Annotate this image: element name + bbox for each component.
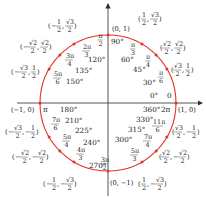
rad-225: 5π 4 [62,133,71,149]
svg-text:): ) [183,44,186,52]
svg-text:,: , [62,22,64,30]
coord-120: ( − 1 2 , √3 2 ) [48,18,77,34]
svg-text:2: 2 [177,48,181,56]
svg-text:4π: 4π [77,146,85,154]
svg-text:6: 6 [56,78,60,86]
rad-360: 2π [161,105,171,114]
svg-text:): ) [187,153,190,161]
svg-text:2: 2 [165,48,169,56]
svg-text:1: 1 [31,124,35,132]
svg-text:√3: √3 [20,64,28,72]
svg-text:−: − [15,153,21,161]
svg-text:6: 6 [156,126,160,134]
deg-210: 210° [65,116,82,125]
svg-text:2: 2 [31,47,35,55]
deg-240: 240° [83,138,100,147]
rad-90: π 2 [98,32,104,48]
svg-text:,: , [29,153,31,161]
svg-text:√2: √2 [21,149,29,157]
svg-text:5π: 5π [63,133,71,141]
coord-45: ( √2 2 , √2 2 ) [160,40,186,56]
svg-text:−: − [46,180,52,188]
deg-330: 330° [136,115,153,124]
svg-text:): ) [159,15,162,23]
svg-text:−: − [8,128,14,136]
svg-text:): ) [164,180,167,188]
coord-neg1-0: (−1, 0) [11,106,35,114]
svg-text:): ) [49,43,52,51]
rad-135: 3π 4 [65,52,74,68]
svg-text:2: 2 [23,157,27,165]
coord-300: ( 1 2 , − √3 2 ) [138,176,167,192]
svg-text:−: − [150,180,156,188]
svg-text:): ) [197,128,200,136]
deg-135: 135° [75,66,92,75]
svg-text:7π: 7π [144,133,152,141]
svg-text:π: π [146,53,150,61]
svg-text:2: 2 [40,157,44,165]
svg-text:): ) [74,22,77,30]
coord-0-neg1: (0, −1) [110,179,134,187]
coord-135: ( − √2 2 , √2 2 ) [20,39,52,55]
coord-240: ( − 1 2 , − √3 2 ) [43,176,77,192]
svg-text:−: − [60,180,66,188]
svg-text:√3: √3 [156,176,164,184]
svg-text:2: 2 [176,70,180,78]
svg-text:2π: 2π [83,43,91,51]
deg-120: 120° [88,55,105,64]
rad-150: 5π 6 [53,70,62,86]
deg-225: 225° [75,126,92,135]
svg-text:2: 2 [164,157,168,165]
svg-text:2: 2 [43,47,47,55]
svg-text:3π: 3π [66,52,74,60]
rad-330: 11π 6 [152,118,165,134]
coord-210: ( − √3 2 , − 1 2 ) [5,124,39,140]
svg-text:2: 2 [16,132,20,140]
svg-text:√3: √3 [151,11,159,19]
svg-text:2: 2 [142,19,146,27]
svg-text:,: , [182,66,184,74]
svg-text:3: 3 [79,154,83,162]
svg-text:2: 2 [99,40,103,48]
svg-text:5π: 5π [54,70,62,78]
svg-text:2: 2 [181,157,185,165]
svg-text:,: , [28,68,30,76]
unit-circle-diagram: (0, 1) (1, 0) (−1, 0) (0, −1) ( 1 2 , √3… [0,0,206,197]
coord-150: ( − √3 2 , 1 2 ) [11,64,40,80]
svg-text:1: 1 [57,18,61,26]
svg-text:√3: √3 [66,18,74,26]
svg-text:−: − [186,128,192,136]
svg-text:2: 2 [22,72,26,80]
svg-text:3: 3 [133,155,137,163]
svg-text:1: 1 [32,64,36,72]
svg-text:−: − [51,22,57,30]
svg-text:): ) [36,128,39,136]
svg-text:2: 2 [177,132,181,140]
svg-text:π: π [159,69,163,77]
svg-text:−: − [32,153,38,161]
svg-text:1: 1 [52,176,56,184]
svg-text:5π: 5π [131,147,139,155]
coord-30: ( √3 2 , 1 2 ) [171,62,194,78]
svg-text:4: 4 [65,141,69,149]
rad-300: 5π 3 [130,147,139,163]
svg-text:1: 1 [142,176,146,184]
svg-text:,: , [183,128,185,136]
svg-text:√2: √2 [41,39,49,47]
coord-60: ( 1 2 , √3 2 ) [138,11,162,27]
svg-text:6: 6 [54,124,58,132]
deg-300: 300° [115,135,132,144]
svg-text:2: 2 [153,19,157,27]
svg-text:2: 2 [103,164,107,172]
svg-text:2: 2 [68,184,72,192]
deg-180: 180° [60,105,77,114]
svg-text:(: ( [138,15,141,23]
svg-text:2: 2 [68,26,72,34]
rad-210: 7π 6 [51,116,60,132]
deg-150: 150° [66,77,83,86]
deg-45: 45° [133,65,146,74]
deg-315: 315° [128,125,145,134]
deg-90: 90° [111,37,124,46]
svg-text:4: 4 [146,141,150,149]
svg-text:,: , [37,43,39,51]
